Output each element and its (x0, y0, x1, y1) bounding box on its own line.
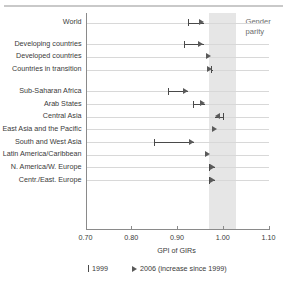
legend-label: 1999 (92, 264, 108, 273)
marker-2006 (200, 100, 205, 106)
x-axis-title: GPI of GIRs (85, 246, 268, 255)
legend-label: 2006 (increase since 1999) (140, 264, 227, 273)
gridline-row (86, 180, 269, 181)
marker-2006 (199, 19, 204, 25)
legend-item: 2006 (increase since 1999) (132, 264, 227, 273)
x-axis-tick (223, 226, 224, 229)
marker-2006 (189, 139, 194, 145)
category-label: World (0, 18, 82, 26)
category-label: East Asia and the Pacific (0, 125, 82, 133)
x-axis-tick (177, 226, 178, 229)
gender-parity-label: Genderparity (245, 17, 270, 36)
marker-2006 (207, 66, 212, 72)
legend-item: 1999 (88, 264, 108, 273)
gridline-row (86, 155, 269, 156)
marker-2006 (205, 151, 210, 157)
marker-2006 (210, 177, 215, 183)
gridline-row (86, 104, 269, 105)
x-axis-tick (131, 226, 132, 229)
x-axis-tick (269, 226, 270, 229)
marker-2006 (210, 164, 215, 170)
legend-triangle-icon (132, 266, 137, 272)
marker-1999 (188, 19, 189, 26)
category-label: South and West Asia (0, 138, 82, 146)
x-axis-line (86, 229, 270, 230)
x-axis-tick-label: 1.00 (203, 233, 243, 242)
category-label: Centr./East. Europe (0, 176, 82, 184)
category-label: Countries in transition (0, 65, 82, 73)
chart-legend: 19992006 (increase since 1999) (0, 262, 287, 276)
gridline-row (86, 129, 269, 130)
gender-parity-band (209, 13, 236, 229)
category-label: Sub-Saharan Africa (0, 87, 82, 95)
marker-1999 (184, 41, 185, 48)
category-label: Developing countries (0, 40, 82, 48)
marker-2006 (206, 53, 211, 59)
gridline-row (86, 44, 269, 45)
gridline-row (86, 57, 269, 58)
category-label: Latin America/Caribbean (0, 150, 82, 158)
category-label: Arab States (0, 100, 82, 108)
x-axis-tick-label: 0.90 (157, 233, 197, 242)
marker-2006 (183, 88, 188, 94)
gridline-row (86, 23, 269, 24)
legend-tick-icon (88, 265, 89, 272)
plot-area: Genderparity0.700.800.901.001.10GPI of G… (0, 0, 287, 281)
category-label: Central Asia (0, 112, 82, 120)
gridline-row (86, 167, 269, 168)
marker-2006 (198, 41, 203, 47)
marker-2006 (212, 126, 217, 132)
category-label: Developed countries (0, 52, 82, 60)
marker-1999 (223, 113, 224, 120)
x-axis-tick-label: 1.10 (249, 233, 288, 242)
marker-1999 (154, 139, 155, 146)
marker-1999 (193, 101, 194, 108)
gridline-row (86, 70, 269, 71)
x-axis-tick-label: 0.80 (111, 233, 151, 242)
x-axis-tick-label: 0.70 (66, 233, 106, 242)
gridline-row (86, 117, 269, 118)
y-axis-line (86, 13, 87, 229)
marker-2006 (215, 113, 220, 119)
x-axis-tick (86, 226, 87, 229)
figure-root: Genderparity0.700.800.901.001.10GPI of G… (0, 0, 287, 281)
marker-1999 (168, 88, 169, 95)
category-label: N. America/W. Europe (0, 163, 82, 171)
